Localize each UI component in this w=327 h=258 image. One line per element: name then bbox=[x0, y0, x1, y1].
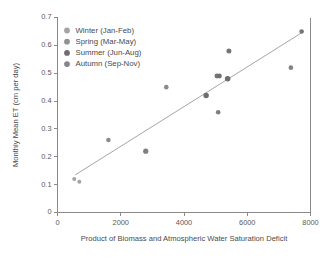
y-tick-label: 0.2 bbox=[41, 152, 51, 161]
legend-label: Winter (Jan-Feb) bbox=[76, 26, 135, 35]
legend-marker bbox=[64, 28, 70, 34]
data-point bbox=[164, 85, 169, 90]
data-point bbox=[203, 93, 208, 98]
x-axis-title: Product of Biomass and Atmospheric Water… bbox=[81, 234, 288, 243]
data-point bbox=[143, 149, 148, 154]
scatter-plot-figure: 00.10.20.30.40.50.60.702000400060008000 … bbox=[0, 0, 327, 258]
data-point bbox=[225, 76, 231, 82]
data-point bbox=[72, 177, 76, 181]
y-tick-label: 0.3 bbox=[41, 124, 51, 133]
data-point bbox=[77, 180, 81, 184]
legend-label: Autumn (Sep-Nov) bbox=[76, 59, 141, 68]
y-tick-label: 0.7 bbox=[41, 12, 51, 21]
y-tick-label: 0 bbox=[47, 207, 51, 216]
data-point bbox=[106, 138, 111, 143]
legend: Winter (Jan-Feb)Spring (Mar-May)Summer (… bbox=[64, 26, 142, 69]
chart-canvas: 00.10.20.30.40.50.60.702000400060008000 … bbox=[0, 0, 327, 258]
x-tick-label: 2000 bbox=[113, 218, 129, 227]
y-tick-label: 0.1 bbox=[41, 180, 51, 189]
x-tick-label: 0 bbox=[55, 218, 59, 227]
x-tick-label: 4000 bbox=[176, 218, 192, 227]
legend-label: Summer (Jun-Aug) bbox=[76, 48, 142, 57]
data-point bbox=[217, 74, 222, 79]
y-axis-title: Monthly Mean ET (cm per day) bbox=[11, 62, 20, 167]
data-point bbox=[216, 110, 221, 115]
legend-marker bbox=[64, 39, 70, 45]
y-tick-label: 0.4 bbox=[41, 96, 51, 105]
x-tick-label: 8000 bbox=[302, 218, 318, 227]
y-tick-label: 0.5 bbox=[41, 68, 51, 77]
data-point bbox=[299, 29, 304, 34]
data-point bbox=[226, 48, 231, 53]
legend-marker bbox=[64, 50, 70, 56]
y-tick-label: 0.6 bbox=[41, 40, 51, 49]
legend-label: Spring (Mar-May) bbox=[76, 37, 137, 46]
x-tick-label: 6000 bbox=[239, 218, 255, 227]
legend-marker bbox=[64, 61, 70, 67]
axis-titles: Product of Biomass and Atmospheric Water… bbox=[11, 62, 288, 243]
data-point bbox=[289, 65, 294, 70]
